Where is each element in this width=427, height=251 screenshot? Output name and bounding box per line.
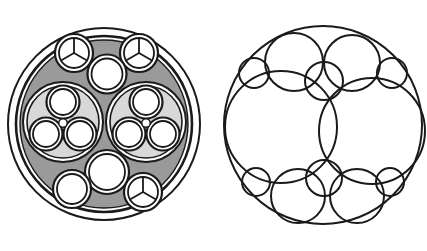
plain-bottom-left-conductor	[57, 174, 87, 204]
cable-cross-section-panel	[8, 28, 200, 220]
bundle-left	[23, 82, 103, 162]
figure-canvas	[0, 0, 427, 251]
figure-root	[0, 0, 427, 251]
plain-bottom-left	[53, 170, 91, 208]
bundle-right	[106, 82, 186, 162]
trilobe-top-left	[55, 34, 93, 72]
bundle-right-core-top-conductor	[133, 89, 159, 115]
trilobe-bottom-right	[124, 173, 162, 211]
plain-top-center-conductor	[92, 59, 123, 90]
bundle-left-core-top-conductor	[50, 89, 76, 115]
bundle-left-core-bottom-left-conductor	[33, 121, 59, 147]
plain-top-center	[88, 55, 127, 94]
bundle-right-core-bottom-right-conductor	[150, 121, 176, 147]
bundle-left-core-bottom-right-conductor	[67, 121, 93, 147]
plain-bottom-center-conductor	[89, 154, 125, 190]
bundle-right-core-bottom-left-conductor	[116, 121, 142, 147]
bundle-left-center-filler	[59, 119, 67, 127]
bundle-right-center-filler	[142, 119, 150, 127]
